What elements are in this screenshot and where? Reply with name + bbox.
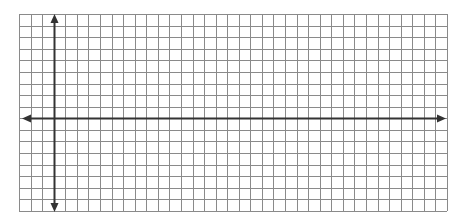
y-axis-up-arrow <box>51 14 59 23</box>
grid-lines <box>19 14 448 212</box>
y-axis-down-arrow <box>51 203 59 212</box>
x-axis-right-arrow <box>437 115 446 123</box>
coordinate-plane <box>0 0 464 220</box>
x-axis-left-arrow <box>22 115 31 123</box>
axes <box>22 14 446 212</box>
